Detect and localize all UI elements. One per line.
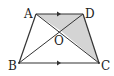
vertex-c-dot: [98, 62, 100, 64]
label-o: O: [54, 34, 64, 48]
side-ab: [19, 14, 36, 63]
label-d: D: [85, 7, 95, 21]
trapezoid-diagram: A D O B C: [0, 0, 114, 76]
parallel-arrow-icon: [57, 61, 61, 66]
label-c: C: [101, 59, 110, 73]
label-b: B: [8, 59, 17, 73]
vertex-b-dot: [18, 62, 20, 64]
label-a: A: [23, 7, 33, 21]
diagram-canvas: A D O B C: [0, 0, 114, 76]
